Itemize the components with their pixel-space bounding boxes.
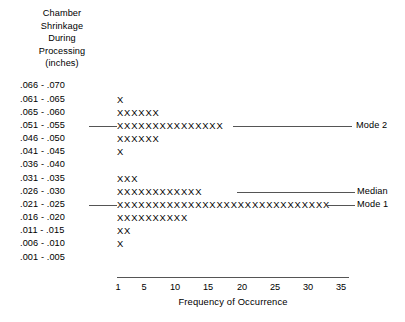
tally-marks: X (117, 93, 124, 106)
bin-label: .065 - .060 (20, 106, 88, 119)
tally-row: .031 - .035 XXX (0, 172, 405, 185)
tally-marks: X (117, 145, 124, 158)
header-line-1: Chamber (20, 7, 104, 20)
bin-label: .006 - .010 (20, 237, 88, 250)
bin-label: .061 - .065 (20, 93, 88, 106)
bin-label: .046 - .050 (20, 132, 88, 145)
tally-row: .041 - .045 X (0, 145, 405, 158)
tally-marks: XXXXXXXXXXXX (117, 185, 202, 198)
x-axis-line (117, 277, 349, 278)
tally-marks: XXXXXX (117, 106, 160, 119)
bin-label: .031 - .035 (20, 172, 88, 185)
tally-row-mode2: .051 - .055 XXXXXXXXXXXXXXX Mode 2 (0, 119, 405, 132)
tally-row: .016 - .020 XXXXXXXXXX (0, 211, 405, 224)
x-tick-30: 30 (299, 281, 317, 293)
bin-label: .041 - .045 (20, 145, 88, 158)
x-axis-title: Frequency of Occurrence (117, 296, 349, 308)
tally-row: .061 - .065 X (0, 93, 405, 106)
tally-row: .011 - .015 XX (0, 224, 405, 237)
tally-marks: XXX (117, 172, 138, 185)
x-tick-20: 20 (233, 281, 251, 293)
tally-row-mode1: .021 - .025 XXXXXXXXXXXXXXXXXXXXXXXXXXXX… (0, 198, 405, 211)
tally-marks: XXXXXXXXXXXXXXXXXXXXXXXXXXXXXX (117, 198, 330, 211)
x-tick-10: 10 (166, 281, 184, 293)
bin-label: .051 - .055 (20, 119, 88, 132)
median-leader-line (237, 192, 355, 193)
annotation-mode1: Mode 1 (357, 198, 388, 211)
bin-label: .011 - .015 (20, 224, 88, 237)
tally-marks: XXXXXX (117, 132, 160, 145)
tally-row: .001 - .005 (0, 251, 405, 264)
tally-row: .065 - .060 XXXXXX (0, 106, 405, 119)
tally-row: .006 - .010 X (0, 237, 405, 250)
x-tick-35: 35 (332, 281, 350, 293)
tally-row: .036 - .040 (0, 158, 405, 171)
annotation-median: Median (357, 185, 388, 198)
x-tick-25: 25 (266, 281, 284, 293)
tally-chart: Chamber Shrinkage During Processing (inc… (0, 0, 405, 322)
tally-marks: XXXXXXXXXXXXXXX (117, 119, 224, 132)
mode2-leader-line-right (233, 126, 352, 127)
header-line-2: Shrinkage (20, 20, 104, 33)
bin-label: .036 - .040 (20, 158, 88, 171)
mode1-leader-line-left (89, 205, 117, 206)
mode2-leader-line-left (89, 126, 117, 127)
tally-marks: XX (117, 224, 131, 237)
tally-marks: X (117, 237, 124, 250)
header-line-3: During (20, 32, 104, 45)
tally-row: .046 - .050 XXXXXX (0, 132, 405, 145)
chart-axis-title-vertical: Chamber Shrinkage During Processing (inc… (20, 7, 104, 70)
tally-marks: XXXXXXXXXX (117, 211, 188, 224)
bin-label: .021 - .025 (20, 198, 88, 211)
bin-label: .001 - .005 (20, 251, 88, 264)
header-line-5: (inches) (20, 57, 104, 70)
bin-label: .026 - .030 (20, 185, 88, 198)
bin-label: .016 - .020 (20, 211, 88, 224)
x-tick-1: 1 (111, 281, 125, 293)
annotation-mode2: Mode 2 (356, 119, 387, 132)
mode1-leader-line-right (326, 205, 355, 206)
x-tick-15: 15 (199, 281, 217, 293)
header-line-4: Processing (20, 45, 104, 58)
x-tick-5: 5 (137, 281, 151, 293)
tally-row: .066 - .070 (0, 79, 405, 92)
tally-row-median: .026 - .030 XXXXXXXXXXXX Median (0, 185, 405, 198)
bin-label: .066 - .070 (20, 79, 88, 92)
